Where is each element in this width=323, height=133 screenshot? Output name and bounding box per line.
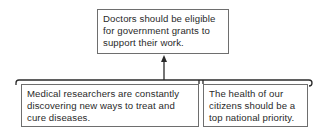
reason-text-line: citizens should be a xyxy=(209,100,302,112)
claim-box: Doctors should be eligible for governmen… xyxy=(97,9,229,54)
reason-text-line: discovering new ways to treat and xyxy=(27,100,193,112)
reason-box-citizen-health: The health of our citizens should be a t… xyxy=(203,84,308,127)
claim-text-line: for government grants to xyxy=(103,25,223,37)
reason-box-medical-research: Medical researchers are constantly disco… xyxy=(21,84,199,127)
claim-text-line: support their work. xyxy=(103,37,223,49)
reason-text-line: The health of our xyxy=(209,88,302,100)
reason-text-line: top national priority. xyxy=(209,112,302,124)
claim-text-line: Doctors should be eligible xyxy=(103,13,223,25)
reason-text-line: cure diseases. xyxy=(27,112,193,124)
arrow-up-icon xyxy=(161,55,167,80)
reason-text-line: Medical researchers are constantly xyxy=(27,88,193,100)
